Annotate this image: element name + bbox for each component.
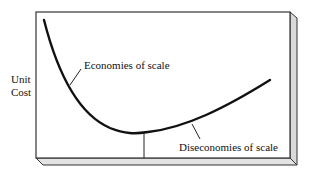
y-axis-label-unit: Unit <box>11 73 31 85</box>
economies-of-scale-label: Economies of scale <box>84 59 170 71</box>
diseconomies-of-scale-label: Diseconomies of scale <box>179 141 278 153</box>
plot-frame <box>36 12 290 158</box>
frame-right-bevel <box>290 12 297 165</box>
frame-bottom-bevel <box>36 158 297 165</box>
cost-curve-diagram: Economies of scale Diseconomies of scale… <box>0 0 309 174</box>
y-axis-label-cost: Cost <box>11 86 31 98</box>
